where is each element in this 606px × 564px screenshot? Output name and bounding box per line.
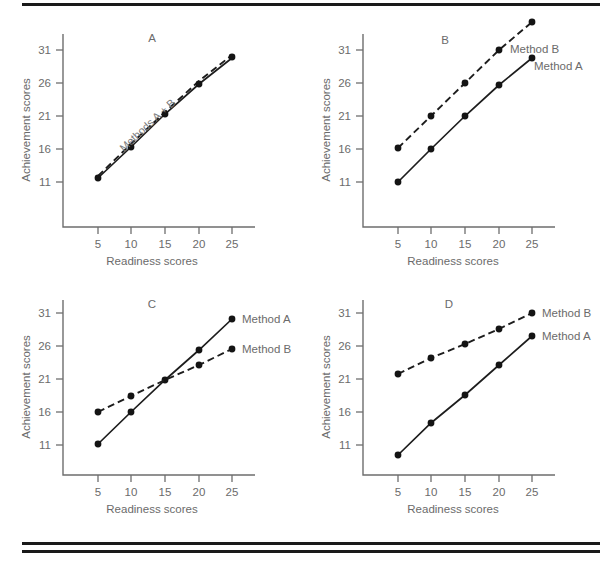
- y-axis-title: Achievement scores: [20, 335, 32, 439]
- x-tick-label-25: 25: [226, 238, 239, 250]
- y-axis-title: Achievement scores: [320, 335, 332, 439]
- data-point: [196, 347, 203, 354]
- x-tick-label-15: 15: [159, 238, 172, 250]
- y-tick-label-21: 21: [38, 373, 51, 385]
- data-point: [496, 82, 503, 89]
- y-tick-label-21: 21: [38, 110, 51, 122]
- y-tick-label-26: 26: [38, 77, 51, 89]
- axis-frame: [363, 300, 555, 475]
- panel-b: 31 26 21 16 11 5 10 15 20 25 Readiness s…: [303, 0, 606, 282]
- y-tick-label-11: 11: [339, 176, 351, 188]
- x-tick-label-10: 10: [125, 238, 138, 250]
- data-point: [395, 179, 402, 186]
- data-point: [462, 341, 469, 348]
- inline-annotation-methods-a-plus-b: Methods A + B: [117, 96, 177, 153]
- panel-b-series: Method B Method A: [395, 19, 583, 186]
- x-tick-label-25: 25: [526, 238, 539, 250]
- data-point: [229, 346, 236, 353]
- y-tick-label-16: 16: [38, 143, 51, 155]
- panel-d-series: Method B Method A: [395, 307, 592, 458]
- data-point: [496, 362, 503, 369]
- panel-c-svg: 31 26 21 16 11 5 10 15 20 25 Readiness s…: [0, 282, 303, 564]
- panel-b-svg: 31 26 21 16 11 5 10 15 20 25 Readiness s…: [303, 0, 606, 282]
- series-label-method-a: Method A: [542, 330, 591, 342]
- x-tick-label-10: 10: [425, 486, 438, 498]
- y-tick-label-16: 16: [338, 143, 351, 155]
- data-point: [229, 316, 236, 323]
- y-tick-label-31: 31: [38, 307, 51, 319]
- x-tick-label-25: 25: [226, 486, 239, 498]
- data-point: [462, 113, 469, 120]
- x-tick-label-5: 5: [395, 486, 401, 498]
- y-tick-label-26: 26: [38, 340, 51, 352]
- y-tick-label-11: 11: [39, 176, 51, 188]
- bottom-rule-upper: [22, 542, 600, 545]
- data-point: [95, 441, 102, 448]
- x-axis-title: Readiness scores: [407, 255, 499, 267]
- data-point: [229, 54, 236, 61]
- figure-root: 31 26 21 16 11 5 10 15 20 25 Readiness s…: [0, 0, 606, 564]
- panel-d-svg: 31 26 21 16 11 5 10 15 20 25 Readiness s…: [303, 282, 606, 564]
- y-tick-label-26: 26: [338, 77, 351, 89]
- x-tick-label-10: 10: [425, 238, 438, 250]
- y-tick-label-26: 26: [338, 340, 351, 352]
- x-tick-label-10: 10: [125, 486, 138, 498]
- x-tick-label-20: 20: [193, 238, 206, 250]
- x-tick-label-15: 15: [459, 486, 472, 498]
- x-tick-label-5: 5: [95, 238, 101, 250]
- panel-letter-a: A: [148, 32, 156, 44]
- data-point: [95, 409, 102, 416]
- data-point: [462, 80, 469, 87]
- y-axis-title: Achievement scores: [20, 78, 32, 182]
- series-label-method-b: Method B: [242, 343, 292, 355]
- panel-letter-b: B: [441, 34, 449, 46]
- data-point: [128, 393, 135, 400]
- series-label-method-b: Method B: [542, 307, 592, 319]
- x-axis-title: Readiness scores: [407, 503, 499, 515]
- data-point: [196, 81, 203, 88]
- data-point: [395, 145, 402, 152]
- y-tick-label-11: 11: [39, 439, 51, 451]
- y-tick-label-31: 31: [338, 307, 351, 319]
- data-point: [128, 409, 135, 416]
- data-point: [395, 371, 402, 378]
- data-point: [428, 355, 435, 362]
- data-point: [395, 452, 402, 459]
- panel-letter-c: C: [148, 298, 156, 310]
- x-tick-label-15: 15: [159, 486, 172, 498]
- x-tick-label-20: 20: [193, 486, 206, 498]
- panel-d-axes: 31 26 21 16 11 5 10 15 20 25 Readiness s…: [320, 298, 555, 515]
- y-tick-label-21: 21: [338, 373, 351, 385]
- x-tick-label-20: 20: [493, 486, 506, 498]
- x-tick-label-20: 20: [493, 238, 506, 250]
- panel-a-series: Methods A + B: [95, 54, 236, 182]
- data-point: [428, 420, 435, 427]
- y-tick-label-21: 21: [338, 110, 351, 122]
- panel-c: 31 26 21 16 11 5 10 15 20 25 Readiness s…: [0, 282, 303, 564]
- series-method-a-line: [398, 58, 532, 182]
- data-point: [428, 113, 435, 120]
- data-point: [95, 175, 102, 182]
- series-label-method-a: Method A: [534, 60, 583, 72]
- y-tick-label-11: 11: [339, 439, 351, 451]
- axis-frame: [63, 300, 255, 475]
- x-axis-title: Readiness scores: [106, 503, 198, 515]
- panel-a: 31 26 21 16 11 5 10 15 20 25 Readiness s…: [0, 0, 303, 282]
- data-point: [162, 377, 169, 384]
- bottom-rule-lower: [22, 550, 600, 553]
- panel-d: 31 26 21 16 11 5 10 15 20 25 Readiness s…: [303, 282, 606, 564]
- panel-c-series: Method A Method B: [95, 313, 292, 447]
- data-point: [529, 310, 536, 317]
- y-tick-label-31: 31: [38, 44, 51, 56]
- x-tick-label-25: 25: [526, 486, 539, 498]
- data-point: [462, 392, 469, 399]
- y-tick-label-16: 16: [338, 406, 351, 418]
- y-axis-title: Achievement scores: [320, 78, 332, 182]
- panel-a-svg: 31 26 21 16 11 5 10 15 20 25 Readiness s…: [0, 0, 303, 282]
- x-axis-title: Readiness scores: [106, 255, 198, 267]
- data-point: [196, 362, 203, 369]
- series-label-method-a: Method A: [242, 313, 291, 325]
- panel-letter-d: D: [445, 298, 453, 310]
- data-point: [496, 326, 503, 333]
- y-tick-label-31: 31: [338, 44, 351, 56]
